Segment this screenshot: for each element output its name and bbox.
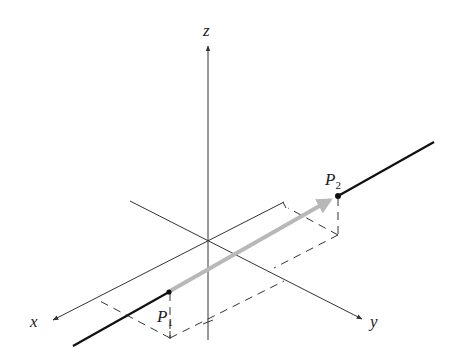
3d-line-diagram: z x y P1 P2: [0, 0, 462, 362]
point-p2: [335, 193, 341, 199]
point-p1: [166, 289, 171, 294]
y-axis: [130, 201, 362, 319]
direction-vector: [170, 200, 330, 291]
line-through-points: [73, 292, 169, 346]
p2-label: P2: [324, 170, 341, 191]
corner-ticks: [170, 202, 286, 339]
z-axis-label: z: [202, 21, 210, 40]
projection-dashes: [96, 198, 338, 338]
line-through-points-upper: [338, 142, 434, 196]
y-axis-label: y: [368, 312, 378, 331]
x-axis-label: x: [29, 312, 38, 331]
x-axis: [53, 202, 284, 320]
